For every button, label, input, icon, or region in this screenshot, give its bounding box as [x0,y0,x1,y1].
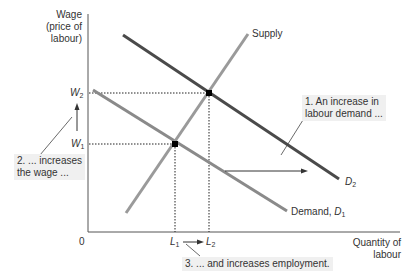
arrowhead-icon [75,103,80,110]
demand-d2-label: D2 [345,176,356,191]
x-axis-label: Quantity of labour [345,237,401,261]
origin-label: 0 [79,236,85,248]
note3-leader [186,244,200,256]
w1-label: W1 [71,138,84,153]
note-increases-employment: 3. ... and increases employment. [182,257,333,271]
l2-label: L2 [206,236,215,251]
note1-leader [281,120,303,155]
w2-label: W2 [70,87,83,102]
equilibrium-point-1 [172,141,178,147]
supply-label: Supply [252,28,283,40]
l1-label: L1 [170,236,179,251]
arrowhead-icon [197,240,204,245]
equilibrium-point-2 [206,90,212,96]
note-increase-labour-demand: 1. An increase in labour demand ... [302,95,386,121]
demand-d1-label: Demand, D1 [291,206,346,221]
arrowhead-icon [301,169,308,174]
demand-d1-curve [93,90,287,211]
y-axis-label: Wage (price of labour) [40,9,82,45]
note-increases-wage: 2. ... increases the wage ... [14,154,85,180]
note2-leader [40,117,72,155]
